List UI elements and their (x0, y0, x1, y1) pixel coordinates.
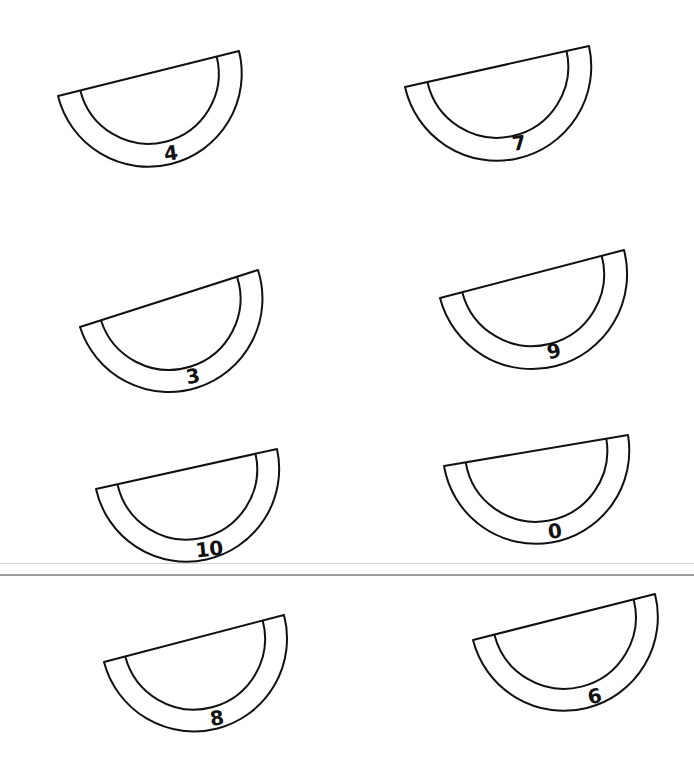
melon-slice-9: 9 (440, 250, 627, 369)
slice-outer-rind (96, 449, 279, 562)
melon-slice-0: 0 (444, 435, 629, 544)
slice-outer-rind (444, 435, 629, 544)
slice-number-label: 8 (208, 705, 225, 731)
slice-number-label: 9 (545, 338, 563, 364)
worksheet-canvas: 473910086 (0, 0, 694, 781)
slice-number-label: 3 (184, 363, 202, 389)
slice-inner-flesh (494, 599, 636, 688)
slice-inner-flesh (101, 277, 240, 370)
slice-inner-flesh (80, 57, 218, 144)
melon-slice-3: 3 (80, 270, 262, 392)
slice-outer-rind (80, 270, 262, 392)
melon-slice-7: 7 (405, 46, 591, 161)
slice-inner-flesh (427, 51, 568, 138)
slice-outer-rind (405, 46, 591, 161)
melon-slice-10: 10 (96, 449, 279, 562)
slice-inner-flesh (462, 256, 604, 346)
slice-number-label: 10 (194, 536, 224, 563)
slice-number-label: 4 (162, 140, 179, 166)
slice-inner-flesh (117, 454, 257, 540)
melon-slice-8: 8 (104, 615, 287, 731)
melon-slice-6: 6 (473, 594, 658, 711)
page-divider-light (0, 563, 694, 564)
slice-number-label: 6 (585, 683, 604, 709)
slice-outer-rind (58, 51, 242, 167)
slice-number-label: 7 (510, 130, 527, 156)
page-divider (0, 574, 694, 576)
slice-number-label: 0 (546, 518, 563, 544)
melon-slice-4: 4 (58, 51, 242, 167)
slice-inner-flesh (125, 621, 265, 710)
